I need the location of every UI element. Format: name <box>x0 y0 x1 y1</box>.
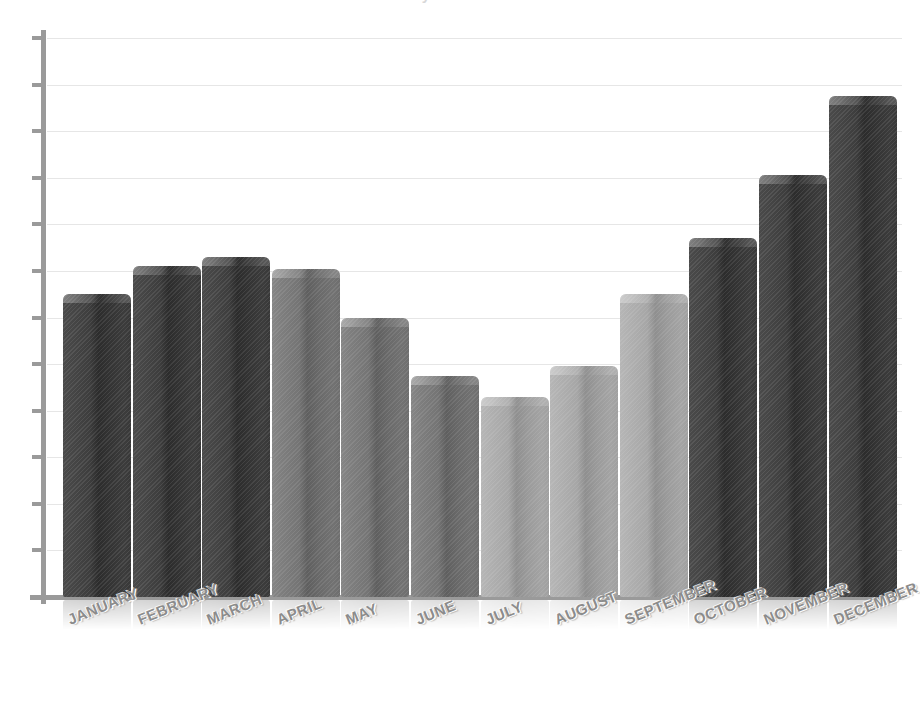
bar-top-cap <box>272 269 340 278</box>
bar-texture <box>411 376 479 597</box>
bar-texture <box>202 257 270 597</box>
bar-top-cap <box>63 294 131 303</box>
bar-top-cap <box>481 397 549 406</box>
bar-top-cap <box>202 257 270 266</box>
bar-texture <box>550 366 618 597</box>
bar-top-cap <box>411 376 479 385</box>
bar-texture <box>133 266 201 597</box>
bar-april[interactable] <box>272 269 340 597</box>
bar-top-cap <box>759 175 827 184</box>
bar-texture <box>759 175 827 597</box>
gridline <box>47 131 902 132</box>
bar-top-cap <box>620 294 688 303</box>
bar-top-cap <box>689 238 757 247</box>
gridline <box>47 38 902 39</box>
bar-march[interactable] <box>202 257 270 597</box>
bar-february[interactable] <box>133 266 201 597</box>
bar-november[interactable] <box>759 175 827 597</box>
bar-texture <box>829 96 897 597</box>
bar-texture <box>341 318 409 598</box>
bar-october[interactable] <box>689 238 757 597</box>
bar-texture <box>620 294 688 597</box>
bar-top-cap <box>133 266 201 275</box>
bar-january[interactable] <box>63 294 131 597</box>
bar-texture <box>63 294 131 597</box>
bar-top-cap <box>341 318 409 327</box>
bar-may[interactable] <box>341 318 409 598</box>
bar-december[interactable] <box>829 96 897 597</box>
bar-september[interactable] <box>620 294 688 597</box>
bar-texture <box>481 397 549 597</box>
bar-july[interactable] <box>481 397 549 597</box>
bar-texture <box>272 269 340 597</box>
bar-june[interactable] <box>411 376 479 597</box>
gridline <box>47 85 902 86</box>
bar-texture <box>689 238 757 597</box>
bar-august[interactable] <box>550 366 618 597</box>
bar-top-cap <box>550 366 618 375</box>
bar-top-cap <box>829 96 897 105</box>
y-axis-line <box>41 30 46 604</box>
